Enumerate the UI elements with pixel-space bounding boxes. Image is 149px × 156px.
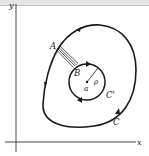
y-axis-label: y	[8, 1, 14, 10]
outer-arrow-right-icon	[115, 108, 120, 114]
point-a-label: A	[49, 41, 56, 51]
inner-arrow-top-icon	[86, 61, 91, 67]
radius-label: ρ	[93, 78, 99, 86]
outer-curve-c	[43, 25, 136, 127]
inner-curve-label: C'	[106, 90, 115, 100]
center-label: a	[84, 84, 88, 93]
axes	[5, 4, 136, 152]
x-axis-label: x	[137, 138, 142, 147]
contour-diagram: y x A B a ρ C' C	[0, 0, 149, 156]
point-b-label: B	[73, 68, 80, 78]
outer-curve-label: C	[113, 117, 120, 127]
